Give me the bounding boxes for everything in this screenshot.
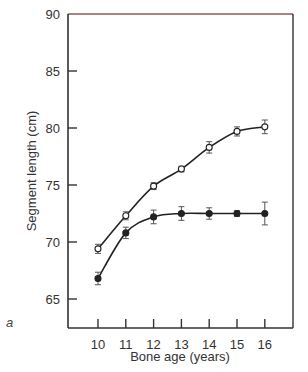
data-point-marker (206, 211, 212, 217)
series-line (98, 127, 265, 249)
x-axis: 10111213141516 (91, 319, 272, 352)
data-point-marker (151, 214, 157, 220)
series-line (98, 213, 265, 278)
panel-label: a (6, 315, 13, 330)
data-point-marker (178, 166, 184, 172)
y-tick-label: 70 (46, 235, 60, 250)
data-point-marker (95, 275, 101, 281)
y-tick-label: 85 (46, 64, 60, 79)
y-tick-label: 80 (46, 121, 60, 136)
x-tick-label: 15 (230, 337, 244, 352)
y-axis-label: Segment length (cm) (24, 111, 39, 232)
data-point-marker (234, 128, 240, 134)
data-point-marker (95, 246, 101, 252)
data-point-marker (151, 183, 157, 189)
data-point-marker (234, 211, 240, 217)
y-tick-label: 75 (46, 178, 60, 193)
series-open-circle (95, 120, 268, 253)
series-filled-circle (95, 202, 268, 285)
data-point-marker (262, 211, 268, 217)
x-tick-label: 16 (258, 337, 272, 352)
y-tick-label: 65 (46, 292, 60, 307)
data-point-marker (178, 211, 184, 217)
data-point-marker (123, 213, 129, 219)
data-series (95, 120, 268, 285)
y-axis: 657075808590 (46, 7, 77, 307)
data-point-marker (262, 124, 268, 130)
line-chart: 657075808590 10111213141516 Bone age (ye… (0, 0, 308, 372)
y-tick-label: 90 (46, 7, 60, 22)
x-axis-label: Bone age (years) (130, 349, 230, 364)
x-tick-label: 10 (91, 337, 105, 352)
data-point-marker (123, 230, 129, 236)
data-point-marker (206, 144, 212, 150)
